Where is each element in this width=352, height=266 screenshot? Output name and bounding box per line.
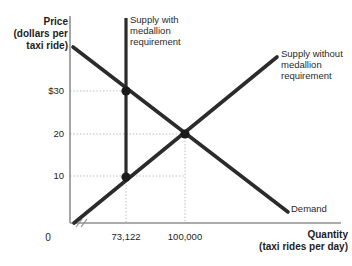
marker-medallion-supply-intersection xyxy=(121,172,130,181)
supply-without-medallion-curve xyxy=(74,57,277,223)
x-axis-title-line1: Quantity xyxy=(307,229,348,240)
y-tick-label-10: 10 xyxy=(22,170,64,181)
y-axis-title: Price(dollars pertaxi ride) xyxy=(0,16,68,51)
x-axis-title: Quantity(taxi rides per day) xyxy=(238,229,348,253)
x-tick-label-73122: 73,122 xyxy=(96,231,156,242)
supply-without-medallion-label: Supply withoutmedallionrequirement xyxy=(281,48,343,82)
supply-without-medallion-label-line3: requirement xyxy=(281,70,332,81)
demand-curve-label: Demand xyxy=(291,203,327,214)
x-tick-label-100000: 100,000 xyxy=(154,231,216,242)
marker-medallion-demand-intersection xyxy=(121,86,130,95)
y-axis-title-line2: (dollars per xyxy=(14,28,68,39)
demand-curve xyxy=(73,47,288,212)
supply-with-medallion-label-line2: medallion xyxy=(130,25,171,36)
marker-free-market-equilibrium xyxy=(180,129,189,138)
supply-with-medallion-label-line1: Supply with xyxy=(130,14,179,25)
x-axis-title-line2: (taxi rides per day) xyxy=(259,241,348,252)
supply-without-medallion-label-line2: medallion xyxy=(281,59,322,70)
supply-with-medallion-label-line3: requirement xyxy=(130,36,181,47)
y-tick-label-20: 20 xyxy=(22,128,64,139)
y-axis-title-line3: taxi ride) xyxy=(26,40,68,51)
supply-demand-chart: Price(dollars pertaxi ride) Quantity(tax… xyxy=(0,0,352,266)
supply-without-medallion-label-line1: Supply without xyxy=(281,48,343,59)
origin-label: 0 xyxy=(40,232,56,244)
supply-with-medallion-label: Supply withmedallionrequirement xyxy=(130,14,181,48)
y-axis-title-line1: Price xyxy=(44,16,68,27)
y-tick-label-30: $30 xyxy=(22,85,64,96)
